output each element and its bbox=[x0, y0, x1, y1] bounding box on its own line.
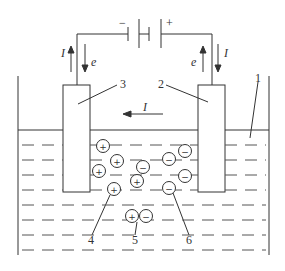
right-current-label: I bbox=[223, 46, 229, 60]
svg-text:+: + bbox=[128, 212, 136, 222]
left-electron-label: e bbox=[91, 55, 97, 69]
battery-positive-label: + bbox=[166, 16, 173, 30]
callout-5: 5 bbox=[132, 233, 138, 247]
anion-icon: − bbox=[179, 145, 192, 158]
cation-icon: + bbox=[93, 165, 106, 178]
anion-icon: − bbox=[179, 170, 192, 183]
right-wire bbox=[161, 34, 212, 85]
cathode-electrode bbox=[63, 85, 90, 192]
right-electron-label: e bbox=[191, 55, 197, 69]
cation-icon: + bbox=[131, 175, 144, 188]
cation-icon: + bbox=[126, 210, 139, 223]
cations: + + + + + + bbox=[93, 140, 144, 223]
svg-text:+: + bbox=[113, 157, 121, 167]
svg-text:+: + bbox=[95, 167, 103, 177]
anions: − − − − − − bbox=[137, 145, 192, 223]
svg-text:+: + bbox=[133, 177, 141, 187]
svg-text:−: − bbox=[181, 172, 189, 182]
anion-icon: − bbox=[140, 210, 153, 223]
anion-icon: − bbox=[163, 182, 176, 195]
cation-icon: + bbox=[97, 140, 110, 153]
callout-1: 1 bbox=[255, 71, 261, 85]
svg-text:−: − bbox=[165, 184, 173, 194]
svg-text:+: + bbox=[110, 185, 118, 195]
svg-text:−: − bbox=[165, 155, 173, 165]
left-current-label: I bbox=[60, 46, 66, 60]
svg-text:−: − bbox=[139, 163, 147, 173]
cation-icon: + bbox=[111, 155, 124, 168]
electrolysis-diagram: − + I e e I I 3 2 1 4 5 6 + + + + + + − … bbox=[0, 0, 285, 271]
callout-4: 4 bbox=[88, 233, 94, 247]
callout-3: 3 bbox=[120, 77, 126, 91]
svg-text:+: + bbox=[99, 142, 107, 152]
anion-icon: − bbox=[137, 161, 150, 174]
solution-current-label: I bbox=[142, 100, 148, 114]
svg-text:−: − bbox=[181, 147, 189, 157]
anode-electrode bbox=[198, 85, 225, 192]
callout-2: 2 bbox=[158, 77, 164, 91]
cation-icon: + bbox=[108, 183, 121, 196]
anion-icon: − bbox=[163, 153, 176, 166]
battery-negative-label: − bbox=[119, 16, 126, 30]
svg-text:−: − bbox=[142, 212, 150, 222]
callout-6: 6 bbox=[186, 233, 192, 247]
